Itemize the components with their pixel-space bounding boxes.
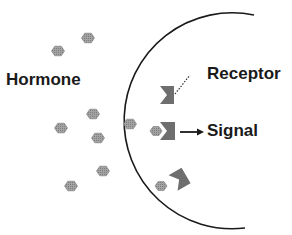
hormone-molecule-icon bbox=[150, 127, 162, 136]
hormone-molecule-icon bbox=[92, 133, 105, 143]
receptor-rotated-icon bbox=[169, 168, 191, 191]
receptor-label: Receptor bbox=[207, 65, 281, 82]
hormone-molecule-icon bbox=[82, 33, 95, 43]
receptor-unbound-icon bbox=[160, 86, 174, 104]
hormone-label: Hormone bbox=[6, 71, 81, 88]
diagram-svg bbox=[0, 0, 292, 235]
hormone-molecule-icon bbox=[87, 109, 100, 119]
signal-arrow-icon bbox=[180, 129, 204, 136]
hormone-molecule-icon bbox=[97, 166, 110, 176]
hormone-molecule-icon bbox=[155, 182, 167, 191]
diagram-canvas: Hormone Receptor Signal bbox=[0, 0, 292, 235]
receptor-pointer-line bbox=[175, 75, 190, 94]
hormone-molecule-icon bbox=[52, 46, 65, 56]
hormone-molecule-icon bbox=[65, 181, 78, 191]
hormone-molecule-icon bbox=[124, 119, 137, 129]
signal-label: Signal bbox=[207, 122, 258, 139]
hormone-molecule-icon bbox=[55, 123, 68, 133]
